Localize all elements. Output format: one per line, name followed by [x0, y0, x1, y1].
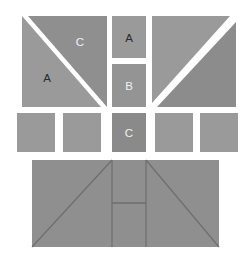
figure-root: A C A B C: [0, 0, 251, 259]
tile-3: [112, 113, 146, 152]
tile-5: [200, 113, 238, 152]
square-b-body: [112, 64, 146, 107]
square-a-body: [112, 16, 146, 58]
tile-1: [17, 113, 55, 152]
square-a: A: [112, 16, 146, 58]
tile-4: [155, 113, 193, 152]
bottom-assembly: [32, 160, 219, 247]
tile-2: [63, 113, 101, 152]
middle-row: C: [17, 113, 238, 152]
square-b: B: [112, 64, 146, 107]
dissection-diagram: A C A B C: [0, 0, 251, 259]
